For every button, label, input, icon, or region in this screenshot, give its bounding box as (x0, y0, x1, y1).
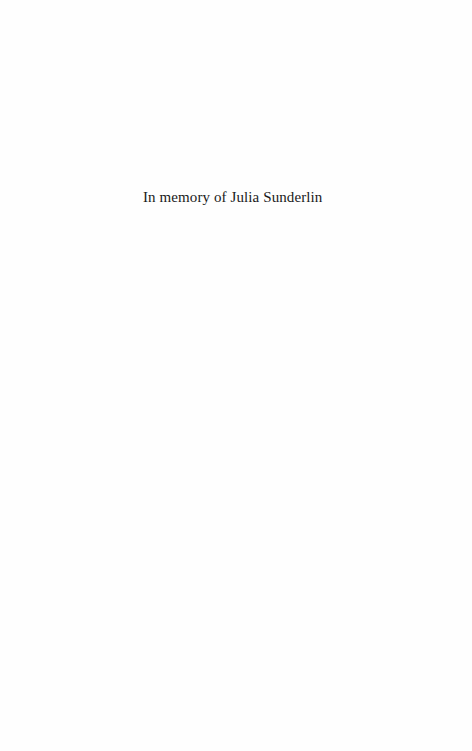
dedication-text: In memory of Julia Sunderlin (143, 187, 322, 207)
book-page: In memory of Julia Sunderlin (0, 0, 472, 751)
